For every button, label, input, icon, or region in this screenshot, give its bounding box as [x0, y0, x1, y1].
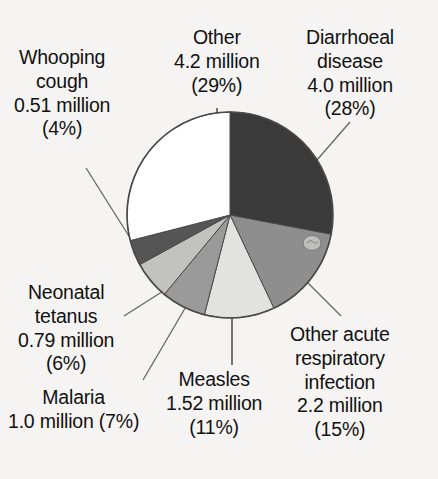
label-line: (11%) — [166, 416, 262, 440]
label-line: tetanus — [18, 305, 114, 329]
label-line: 0.51 million — [14, 94, 110, 118]
label-line: (6%) — [18, 352, 114, 376]
slice-label-neonatal-tetanus: Neonatal tetanus 0.79 million (6%) — [18, 281, 114, 376]
slice-label-other: Other 4.2 million (29%) — [174, 26, 260, 97]
label-line: 1.0 million (7%) — [8, 410, 139, 434]
label-line: Measles — [166, 368, 262, 392]
label-line: Diarrhoeal — [306, 26, 394, 50]
pie-slices — [127, 112, 333, 318]
label-line: 1.52 million — [166, 392, 262, 416]
label-line: 0.79 million — [18, 329, 114, 353]
slice-label-diarrhoeal: Diarrhoeal disease 4.0 million (28%) — [306, 26, 394, 121]
label-line: respiratory — [290, 347, 390, 371]
label-line: Other acute — [290, 323, 390, 347]
label-line: Malaria — [8, 386, 139, 410]
label-line: (28%) — [306, 97, 394, 121]
label-line: Neonatal — [18, 281, 114, 305]
label-line: 4.0 million — [306, 74, 394, 98]
label-line: Whooping — [14, 46, 110, 70]
label-line: infection — [290, 371, 390, 395]
label-line: (4%) — [14, 117, 110, 141]
pie-chart-figure: Diarrhoeal disease 4.0 million (28%) Oth… — [0, 0, 438, 479]
label-line: (29%) — [174, 74, 260, 98]
label-line: cough — [14, 70, 110, 94]
slice-label-other-acute-respiratory-infection: Other acute respiratory infection 2.2 mi… — [290, 323, 390, 442]
slice-label-malaria: Malaria 1.0 million (7%) — [8, 386, 139, 434]
slice-label-measles: Measles 1.52 million (11%) — [166, 368, 262, 439]
label-line: 4.2 million — [174, 50, 260, 74]
label-line: Other — [174, 26, 260, 50]
label-line: disease — [306, 50, 394, 74]
label-line: (15%) — [290, 418, 390, 442]
scan-artifact — [303, 236, 321, 251]
slice-label-whooping-cough: Whooping cough 0.51 million (4%) — [14, 46, 110, 141]
label-line: 2.2 million — [290, 394, 390, 418]
